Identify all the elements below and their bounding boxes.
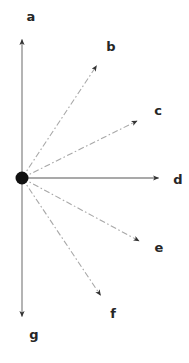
ray-label-f: f [110,307,116,320]
ray-e [22,178,139,241]
ray-lines-group [22,40,159,317]
ray-c [22,121,137,178]
ray-label-g: g [29,328,38,341]
ray-label-e: e [155,241,164,254]
ray-label-a: a [27,10,36,23]
ray-f [22,178,100,295]
ray-diagram-figure: abcdefg [0,0,189,363]
origin-point [16,172,29,185]
ray-label-b: b [106,40,115,53]
ray-label-d: d [173,173,182,186]
ray-label-c: c [154,104,162,117]
ray-diagram-svg [0,0,189,363]
ray-b [22,66,97,178]
